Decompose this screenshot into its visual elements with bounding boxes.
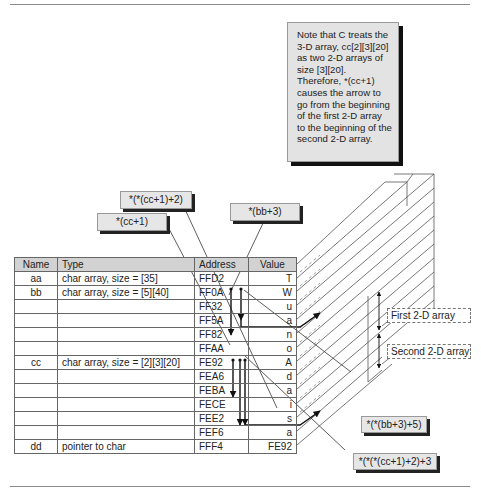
table-row: FEE2s	[15, 412, 297, 426]
dashed-fill-lines	[300, 255, 320, 412]
cell-address: FF32	[195, 300, 249, 314]
callout-cc-plus-1-plus-2: *(*(cc+1)+2)	[120, 191, 192, 209]
cell-type	[58, 398, 195, 412]
explanation-note: Note that C treats the 3-D array, cc[2][…	[287, 22, 399, 162]
cell-name: dd	[15, 440, 58, 454]
table-row: FEA6d	[15, 370, 297, 384]
cell-address: FEF6	[195, 426, 249, 440]
table-row: bbchar array, size = [5][40]FF0AW	[15, 286, 297, 300]
cell-type	[58, 412, 195, 426]
table-row: ccchar array, size = [2][3][20]FE92A	[15, 356, 297, 370]
cell-name	[15, 314, 58, 328]
cell-type: char array, size = [2][3][20]	[58, 356, 195, 370]
cell-name: bb	[15, 286, 58, 300]
cell-name	[15, 370, 58, 384]
top-rule	[10, 4, 470, 5]
header-address: Address	[195, 258, 249, 272]
cell-name	[15, 300, 58, 314]
callout-text: *(*(*(cc+1)+2)+3	[359, 456, 432, 467]
cell-value: W	[249, 286, 297, 300]
cell-type	[58, 300, 195, 314]
cell-value: FE92	[249, 440, 297, 454]
table-row: aachar array, size = [35]FFD2T	[15, 272, 297, 286]
callout-cc-full: *(*(*(cc+1)+2)+3	[353, 453, 437, 470]
header-name: Name	[15, 258, 58, 272]
cell-value: d	[249, 370, 297, 384]
table-row: FEF6a	[15, 426, 297, 440]
cell-type: char array, size = [5][40]	[58, 286, 195, 300]
cell-name	[15, 328, 58, 342]
table-header-row: Name Type Address Value	[15, 258, 297, 272]
callout-text: *(*(cc+1)+2)	[129, 194, 183, 205]
label-second-2d-array: Second 2-D array	[387, 344, 471, 359]
cell-type: pointer to char	[58, 440, 195, 454]
table-row: FF32u	[15, 300, 297, 314]
cell-value: A	[249, 356, 297, 370]
cell-address: FECE	[195, 398, 249, 412]
cell-address: FF82	[195, 328, 249, 342]
callout-text: *(bb+3)	[248, 206, 281, 217]
cell-address: FE92	[195, 356, 249, 370]
cell-value: a	[249, 426, 297, 440]
cell-value: n	[249, 328, 297, 342]
memory-table: Name Type Address Value aachar array, si…	[14, 257, 297, 454]
bottom-rule	[10, 486, 470, 487]
note-text: Note that C treats the 3-D array, cc[2][…	[297, 29, 392, 144]
cell-type	[58, 342, 195, 356]
cell-address: FF5A	[195, 314, 249, 328]
cell-address: FEBA	[195, 384, 249, 398]
cell-type	[58, 314, 195, 328]
cell-value: T	[249, 272, 297, 286]
cell-value: i	[249, 398, 297, 412]
cell-address: FFD2	[195, 272, 249, 286]
callout-text: *(*(bb+3)+5)	[366, 419, 421, 430]
cell-value: a	[249, 314, 297, 328]
table-row: ddpointer to charFFF4FE92	[15, 440, 297, 454]
table-row: FEBAa	[15, 384, 297, 398]
table-row: FECEi	[15, 398, 297, 412]
cell-value: a	[249, 384, 297, 398]
header-value: Value	[249, 258, 297, 272]
cell-value: o	[249, 342, 297, 356]
table-row: FFAAo	[15, 342, 297, 356]
cell-type	[58, 370, 195, 384]
callout-bb-plus-3: *(bb+3)	[230, 203, 300, 221]
cell-name	[15, 342, 58, 356]
cell-address: FEA6	[195, 370, 249, 384]
cell-name	[15, 398, 58, 412]
cell-name	[15, 384, 58, 398]
cell-address: FEE2	[195, 412, 249, 426]
cell-name: cc	[15, 356, 58, 370]
cell-type: char array, size = [35]	[58, 272, 195, 286]
cell-address: FF0A	[195, 286, 249, 300]
cell-address: FFAA	[195, 342, 249, 356]
cell-type	[58, 328, 195, 342]
cell-type	[58, 384, 195, 398]
label-text: Second 2-D array	[391, 346, 469, 357]
cell-type	[58, 426, 195, 440]
callout-bb-plus-3-plus-5: *(*(bb+3)+5)	[361, 416, 427, 433]
cell-value: s	[249, 412, 297, 426]
cell-name	[15, 426, 58, 440]
callout-text: *(cc+1)	[116, 216, 148, 227]
label-first-2d-array: First 2-D array	[387, 308, 471, 323]
table-row: FF5Aa	[15, 314, 297, 328]
header-type: Type	[58, 258, 195, 272]
cell-name: aa	[15, 272, 58, 286]
callout-cc-plus-1: *(cc+1)	[97, 213, 167, 231]
cell-name	[15, 412, 58, 426]
label-text: First 2-D array	[391, 310, 455, 321]
cell-address: FFF4	[195, 440, 249, 454]
table-row: FF82n	[15, 328, 297, 342]
cell-value: u	[249, 300, 297, 314]
